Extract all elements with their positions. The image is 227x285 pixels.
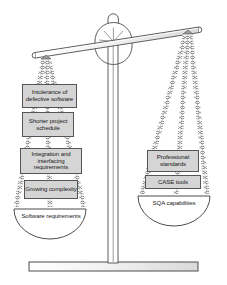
- left-box-shorter-project-schedule: Shorter project schedule: [22, 112, 74, 137]
- left-box-intolerance-of-defective-software: Intolerance of defective software: [22, 84, 77, 108]
- balance-scale-diagram: Intolerance of defective software Shorte…: [0, 0, 227, 285]
- left-box-integration-and-interfacing-requirements: Integration and interfacing requirements: [20, 148, 82, 174]
- left-box-growing-complexity: Growing complexity: [24, 180, 78, 199]
- left-pan-label-software-requirements: Software requirements: [19, 205, 83, 227]
- right-pan-label-sqa-capabilities: SQA capabilities: [147, 193, 201, 213]
- scale-drawing: [0, 0, 227, 285]
- right-box-case-tools: CASE tools: [145, 175, 201, 189]
- center-post: [108, 30, 118, 263]
- right-box-professional-standards: Professional standards: [147, 150, 199, 172]
